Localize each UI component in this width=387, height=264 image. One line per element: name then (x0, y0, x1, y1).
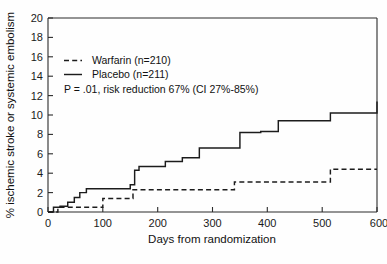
x-tick-label: 600 (370, 217, 387, 229)
x-tick-label: 300 (203, 217, 221, 229)
x-tick-label: 500 (313, 217, 331, 229)
y-tick-label: 0 (37, 206, 43, 218)
y-tick-label: 2 (37, 187, 43, 199)
y-axis-title: % ischemic stroke or systemic embolism (4, 12, 16, 218)
kaplan-meier-chart: 0 2 4 6 8 10 12 14 16 18 20 0 100 200 30 (0, 0, 387, 264)
y-axis-ticks (48, 18, 53, 212)
x-axis-tick-labels: 0 100 200 300 400 500 600 (45, 217, 387, 229)
x-axis-ticks (48, 207, 377, 212)
data-series-group (48, 101, 377, 212)
x-tick-label: 100 (94, 217, 112, 229)
y-tick-label: 10 (31, 109, 43, 121)
y-tick-label: 12 (31, 90, 43, 102)
x-tick-label: 200 (149, 217, 167, 229)
x-axis-title: Days from randomization (148, 233, 276, 245)
stats-annotation: P = .01, risk reduction 67% (CI 27%-85%) (64, 83, 258, 95)
x-tick-label: 0 (45, 217, 51, 229)
series-line-placebo (48, 101, 377, 212)
y-tick-label: 18 (31, 31, 43, 43)
y-tick-label: 4 (37, 167, 43, 179)
y-tick-label: 8 (37, 128, 43, 140)
y-tick-label: 20 (31, 12, 43, 24)
chart-canvas: 0 2 4 6 8 10 12 14 16 18 20 0 100 200 30 (0, 0, 387, 264)
y-tick-label: 14 (31, 70, 43, 82)
y-tick-label: 16 (31, 51, 43, 63)
x-tick-label: 400 (258, 217, 276, 229)
plot-frame (48, 18, 377, 212)
series-line-warfarin (48, 169, 377, 212)
legend-label-warfarin: Warfarin (n=210) (92, 54, 171, 66)
y-tick-label: 6 (37, 148, 43, 160)
legend: Warfarin (n=210) Placebo (n=211) (64, 54, 171, 80)
y-axis-tick-labels: 0 2 4 6 8 10 12 14 16 18 20 (31, 12, 43, 218)
legend-label-placebo: Placebo (n=211) (92, 68, 169, 80)
